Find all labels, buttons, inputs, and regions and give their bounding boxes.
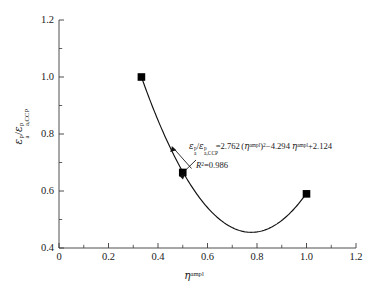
y-tick-label-3: 1.0: [34, 72, 54, 83]
regression-equation-annotation: εpa/εpa,CCP=2.762(ηampl)2−4.294ηampl+2.1…: [189, 142, 332, 151]
figure-container: 0 0.2 0.4 0.6 0.8 1.0 1.2 0.4 0.6 0.8 1.…: [0, 0, 383, 291]
r-squared-annotation: R2=0.986: [196, 161, 228, 170]
x-tick-label-6: 1.2: [349, 252, 362, 263]
x-tick-label-1: 0.2: [102, 252, 115, 263]
data-point-markers: [138, 73, 311, 197]
x-tick-label-5: 1.0: [300, 252, 313, 263]
equation-constant: 2.124: [313, 141, 332, 151]
x-axis-title: ηampl: [184, 270, 204, 282]
y-axis-numerator-subscript: a: [24, 136, 31, 139]
y-major-ticks: [59, 20, 64, 248]
x-major-ticks: [59, 243, 356, 248]
y-tick-label-1: 0.6: [34, 186, 54, 197]
x-tick-label-0: 0: [56, 252, 61, 263]
y-axis-denominator-symbol: ε: [12, 126, 24, 132]
annotation-leader-line: [170, 147, 196, 180]
equation-lhs-numerator-subscript: a: [194, 151, 196, 157]
r-squared-value: =0.986: [204, 160, 228, 170]
equation-lhs-numerator-symbol: ε: [189, 141, 194, 151]
equation-quadratic-coefficient: 2.762: [221, 141, 240, 151]
equation-linear-coefficient: 4.294: [271, 141, 290, 151]
x-tick-label-2: 0.4: [151, 252, 164, 263]
y-axis-numerator-symbol: ε: [12, 139, 24, 145]
x-tick-label-4: 0.8: [250, 252, 263, 263]
y-axis-denominator-subscript: a,CCP: [24, 109, 31, 126]
equation-lhs-denominator-symbol: ε: [199, 141, 204, 151]
y-tick-label-0: 0.4: [34, 243, 54, 254]
data-point-marker: [303, 190, 311, 198]
x-tick-label-3: 0.6: [201, 252, 214, 263]
equation-lhs-denominator-subscript: a,CCP: [204, 151, 218, 157]
x-axis-title-superscript: ampl: [191, 270, 204, 277]
equation-eta-superscript-2: ampl: [297, 142, 308, 148]
data-point-marker: [138, 73, 146, 81]
equation-eta-superscript-1: ampl: [249, 142, 260, 148]
fit-curve: [141, 77, 306, 232]
y-tick-label-4: 1.2: [34, 15, 54, 26]
y-axis-title: εpa/εpa,CCP: [13, 113, 25, 144]
y-tick-label-2: 0.8: [34, 129, 54, 140]
